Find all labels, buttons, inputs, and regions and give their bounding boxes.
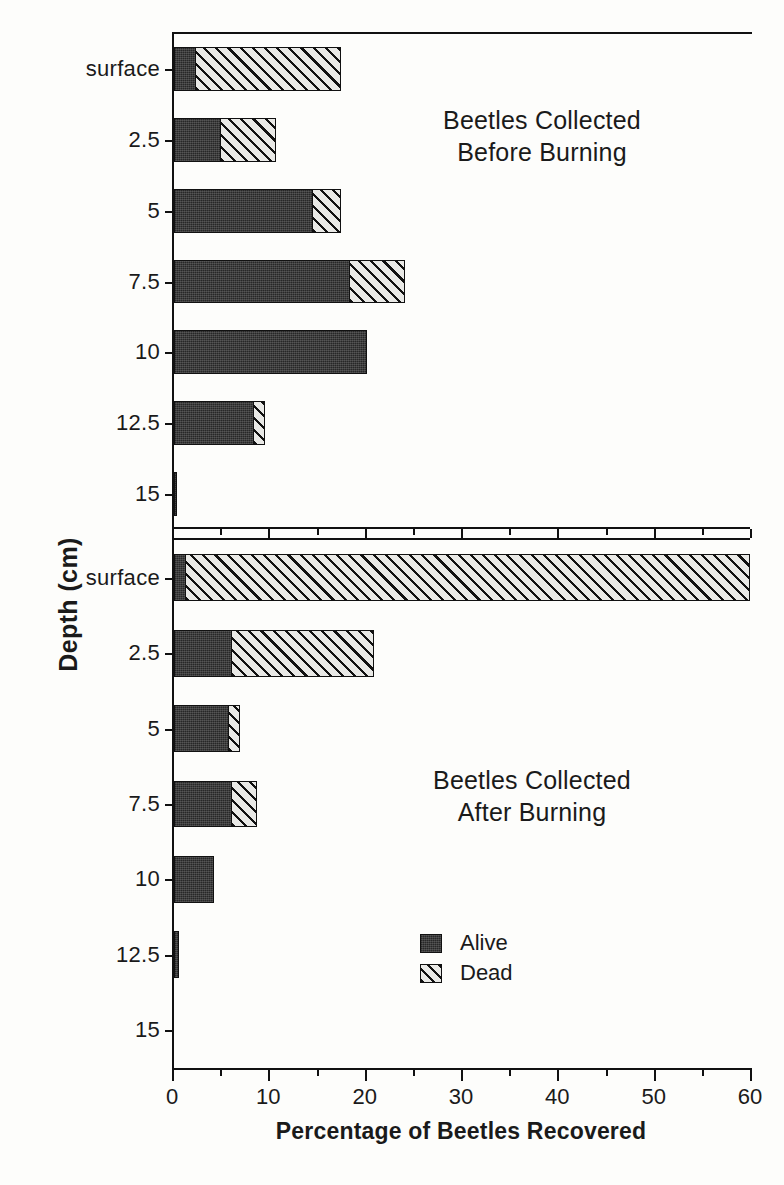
- bar-segment-alive: [174, 856, 214, 903]
- bar-row: [174, 472, 752, 516]
- y-axis-tick: [165, 352, 174, 354]
- x-axis-tick-label: 30: [449, 1084, 473, 1110]
- stacked-bar: [174, 47, 339, 91]
- x-axis-tick-label: 40: [545, 1084, 569, 1110]
- legend-label-alive: Alive: [460, 930, 508, 956]
- y-axis-tick: [165, 879, 174, 881]
- bar-row: [174, 401, 752, 445]
- divider-tick: [461, 529, 463, 538]
- x-axis-tick-label: 50: [641, 1084, 665, 1110]
- stacked-bar: [174, 554, 749, 601]
- y-axis-tick: [165, 578, 174, 580]
- divider-tick: [702, 529, 704, 535]
- bar-segment-alive: [174, 472, 177, 516]
- x-axis-minor-tick: [220, 1070, 222, 1076]
- bar-row: [174, 856, 752, 903]
- legend-swatch-alive-icon: [420, 934, 442, 953]
- y-axis-tick: [165, 653, 174, 655]
- y-axis-tick: [165, 69, 174, 71]
- panel-title-before-line1: Beetles Collected: [402, 104, 682, 136]
- x-axis: 0102030405060: [172, 1068, 750, 1070]
- bar-row: [174, 189, 752, 233]
- bar-segment-dead: [312, 189, 341, 233]
- y-axis-label: Depth (cm): [54, 475, 83, 735]
- bar-row: [174, 554, 752, 601]
- bar-segment-dead: [253, 401, 265, 445]
- panel-title-after-line1: Beetles Collected: [382, 764, 682, 796]
- y-axis-tick: [165, 955, 174, 957]
- panel-title-before-line2: Before Burning: [402, 136, 682, 168]
- y-axis-tick-label: 5: [147, 716, 160, 742]
- y-axis-tick-label: surface: [86, 56, 160, 82]
- bar-segment-alive: [174, 189, 314, 233]
- x-axis-tick: [654, 1070, 656, 1081]
- stacked-bar: [174, 401, 263, 445]
- x-axis-minor-tick: [509, 1070, 511, 1076]
- bar-segment-dead: [195, 47, 341, 91]
- bar-segment-alive: [174, 118, 221, 162]
- divider-tick: [317, 529, 319, 535]
- panel-title-after: Beetles Collected After Burning: [382, 764, 682, 828]
- x-axis-minor-tick: [317, 1070, 319, 1076]
- divider-tick: [509, 529, 511, 535]
- panel-title-before: Beetles Collected Before Burning: [402, 104, 682, 168]
- x-axis-minor-tick: [606, 1070, 608, 1076]
- stacked-bar: [174, 118, 275, 162]
- bar-segment-dead: [231, 781, 257, 828]
- x-axis-minor-tick: [413, 1070, 415, 1076]
- stacked-bar: [174, 472, 175, 516]
- divider-tick-group: [172, 529, 750, 539]
- bar-segment-dead: [231, 630, 374, 677]
- stacked-bar: [174, 330, 365, 374]
- y-axis-tick-label: 12.5: [116, 942, 160, 968]
- panel-title-after-line2: After Burning: [382, 796, 682, 828]
- x-axis-label: Percentage of Beetles Recovered: [172, 1118, 750, 1145]
- x-axis-tick-label: 20: [352, 1084, 376, 1110]
- x-axis-minor-tick: [702, 1070, 704, 1076]
- bar-row: [174, 260, 752, 304]
- stacked-bar: [174, 705, 238, 752]
- legend-label-dead: Dead: [460, 960, 513, 986]
- bar-row: [174, 630, 752, 677]
- y-axis-tick-label: 12.5: [116, 410, 160, 436]
- y-axis-tick: [165, 140, 174, 142]
- divider-tick: [365, 529, 367, 538]
- stacked-bar: [174, 781, 256, 828]
- y-axis-tick: [165, 804, 174, 806]
- x-axis-tick: [365, 1070, 367, 1081]
- bar-segment-alive: [174, 330, 367, 374]
- x-axis-tick-label: 60: [738, 1084, 762, 1110]
- y-axis-tick: [165, 211, 174, 213]
- y-axis-tick: [165, 423, 174, 425]
- y-axis-tick: [165, 282, 174, 284]
- y-axis-tick: [165, 1030, 174, 1032]
- bar-segment-alive: [174, 931, 179, 978]
- bar-row: [174, 705, 752, 752]
- x-axis-tick-label: 0: [166, 1084, 178, 1110]
- bar-segment-alive: [174, 401, 255, 445]
- y-axis-tick-label: 2.5: [129, 640, 160, 666]
- y-axis-tick-label: 5: [147, 198, 160, 224]
- stacked-bar: [174, 931, 177, 978]
- bar-segment-dead: [228, 705, 240, 752]
- divider-tick: [172, 529, 174, 538]
- bar-segment-dead: [220, 118, 277, 162]
- divider-tick: [220, 529, 222, 535]
- bar-row: [174, 1007, 752, 1054]
- bar-segment-dead: [185, 554, 750, 601]
- x-axis-tick: [750, 1070, 752, 1081]
- bar-segment-alive: [174, 47, 196, 91]
- y-axis-tick-label: 15: [135, 481, 160, 507]
- x-axis-tick: [557, 1070, 559, 1081]
- y-axis-tick-label: 10: [135, 339, 160, 365]
- divider-tick: [606, 529, 608, 535]
- bar-segment-alive: [174, 781, 233, 828]
- y-axis-tick-label: 7.5: [129, 269, 160, 295]
- divider-tick: [268, 529, 270, 538]
- beetle-recovery-figure: Depth (cm) surface2.557.51012.515 surfac…: [0, 0, 784, 1185]
- legend-item-dead: Dead: [420, 960, 513, 986]
- x-axis-tick: [268, 1070, 270, 1081]
- y-axis-tick-label: 15: [135, 1017, 160, 1043]
- y-axis-tick: [165, 729, 174, 731]
- stacked-bar: [174, 189, 339, 233]
